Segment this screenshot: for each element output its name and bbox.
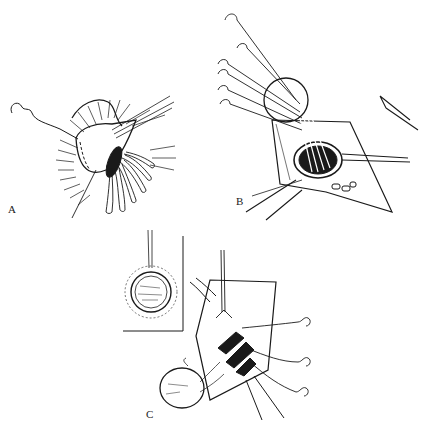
illustration-artwork: A B xyxy=(0,0,434,444)
panel-c-inset xyxy=(123,230,183,331)
panel-b-drawing xyxy=(218,14,418,220)
panel-label-c-text: C xyxy=(146,408,153,420)
surgical-figure: A B xyxy=(0,0,434,444)
panel-label-b-text: B xyxy=(236,195,243,207)
panel-a-drawing xyxy=(11,96,176,218)
panel-label-a-text: A xyxy=(8,203,16,215)
